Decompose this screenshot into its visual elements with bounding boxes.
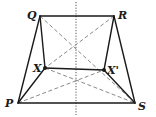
point-dot-X (43, 66, 47, 70)
vertex-label-S: S (138, 100, 146, 113)
dashed-segment-Q-S (40, 16, 135, 103)
vertex-label-Xp: X' (106, 64, 119, 77)
point-dot-Xp (102, 68, 106, 72)
segment-R-Xp (104, 16, 114, 70)
segment-R-S (114, 16, 135, 103)
dashed-segment-R-X (45, 16, 114, 68)
segment-Q-X (40, 16, 45, 68)
segment-X-Xp (45, 68, 104, 70)
segment-Q-P (18, 16, 40, 103)
vertex-label-R: R (117, 9, 127, 22)
vertex-label-X: X (32, 62, 42, 75)
vertex-label-Q: Q (27, 9, 37, 22)
trapezoid-diagram: QRXX'PS (0, 0, 156, 117)
dashed-segment-X-S (45, 68, 135, 103)
vertex-label-P: P (4, 97, 14, 110)
